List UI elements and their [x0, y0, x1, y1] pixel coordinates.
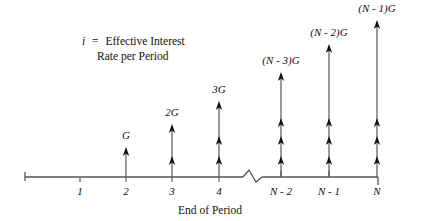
tick-label-4: 4 — [216, 185, 222, 197]
cash-flow-arrow-period-n: (N - 1)G — [358, 2, 395, 177]
note-text-rest: Effective Interest — [105, 35, 185, 47]
tick-label-1: 1 — [77, 185, 83, 197]
note-equals: = — [92, 35, 99, 47]
tick-label-2: 2 — [123, 185, 129, 197]
tick-label-n: N — [372, 185, 381, 197]
cash-flow-arrow-period-4: 3G — [211, 83, 226, 177]
interest-rate-note-line-2: Rate per Period — [97, 50, 169, 63]
tick-label-3: 3 — [168, 185, 175, 197]
cash-flow-diagram-canvas: i = Effective Interest Rate per Period — [0, 0, 421, 221]
arrow-value-label-period-n-minus-1: (N - 2)G — [310, 26, 347, 39]
cash-flow-arrow-period-n-minus-1: (N - 2)G — [310, 26, 347, 177]
arrow-value-label-period-n: (N - 1)G — [358, 2, 395, 15]
x-axis-title: End of Period — [178, 204, 242, 216]
tick-label-n-minus-1: N - 1 — [317, 185, 340, 197]
arrow-value-label-period-2: G — [122, 129, 130, 141]
cash-flow-arrow-period-3: 2G — [165, 106, 179, 177]
cash-flow-diagram-figure: i = Effective Interest Rate per Period — [0, 0, 421, 221]
tick-label-n-minus-2: N - 2 — [269, 185, 293, 197]
cash-flow-arrow-period-2: G — [122, 129, 130, 177]
interest-rate-note-line-1: i = Effective Interest — [82, 35, 186, 47]
arrow-value-label-period-n-minus-2: (N - 3)G — [262, 54, 299, 67]
axis-tick-labels: 1 2 3 4 N - 2 N - 1 N — [77, 185, 381, 197]
arrow-value-label-period-4: 3G — [211, 83, 226, 95]
time-axis — [25, 170, 378, 185]
note-symbol-i: i — [82, 35, 85, 47]
arrow-value-label-period-3: 2G — [165, 106, 179, 118]
cash-flow-arrow-period-n-minus-2: (N - 3)G — [262, 54, 299, 177]
axis-break-zigzag-icon — [243, 170, 262, 182]
